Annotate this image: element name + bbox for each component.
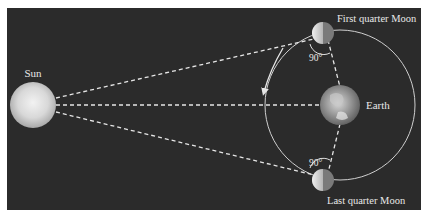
moon-phases-diagram: Sun Earth First quarter Moon Last quarte… — [0, 0, 431, 217]
sun — [10, 82, 56, 128]
last-quarter-moon — [312, 169, 334, 191]
angle-label-bottom: 90° — [309, 158, 323, 168]
last-quarter-moon-label: Last quarter Moon — [327, 195, 406, 206]
first-quarter-moon-label: First quarter Moon — [337, 13, 417, 24]
sun-label: Sun — [24, 67, 42, 79]
angle-label-top: 90° — [309, 53, 323, 63]
earth-label: Earth — [366, 99, 390, 111]
earth — [320, 85, 360, 125]
first-quarter-moon — [312, 22, 334, 44]
